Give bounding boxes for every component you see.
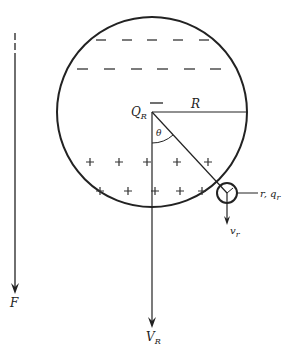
radius-label: R: [190, 97, 200, 111]
large-velocity-label: VR: [146, 330, 161, 346]
small-radius-charge-label: r, qr: [260, 188, 281, 202]
large-charge-label: QR: [131, 105, 147, 121]
field-arrow: [11, 33, 19, 294]
field-label: F: [9, 296, 19, 310]
small-radius-line: [227, 188, 233, 193]
negative-charges: [77, 40, 221, 69]
small-velocity-label: vr: [230, 225, 241, 239]
drop-collision-diagram: F QR R VR θ: [0, 0, 289, 354]
positive-charges: [86, 158, 212, 195]
angle-label: θ: [156, 128, 162, 138]
contact-line: [152, 112, 227, 193]
